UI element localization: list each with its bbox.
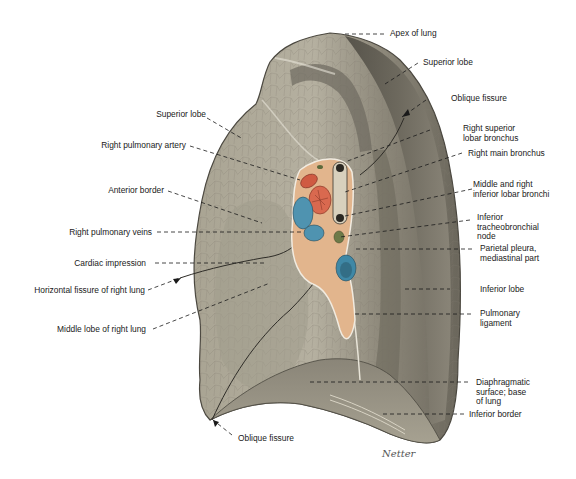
label-inferior-lobe: Inferior lobe <box>480 285 524 295</box>
label-inferior-tracheobronchial-node: Inferior tracheobronchial node <box>477 213 539 242</box>
lung-anatomy-figure: Apex of lung Superior lobe Oblique fissu… <box>0 0 576 479</box>
label-right-pulmonary-veins: Right pulmonary veins <box>69 228 152 238</box>
label-superior-lobe-lateral: Superior lobe <box>423 58 473 68</box>
label-oblique-fissure-top: Oblique fissure <box>451 94 507 104</box>
label-diaphragmatic-surface: Diaphragmatic surface; base of lung <box>476 378 530 407</box>
label-superior-lobe-medial: Superior lobe <box>156 110 206 120</box>
artist-signature: Netter <box>382 448 415 459</box>
label-anterior-border: Anterior border <box>108 186 164 196</box>
label-oblique-fissure-bottom: Oblique fissure <box>238 434 294 444</box>
label-middle-inferior-lobar-bronchi: Middle and right inferior lobar bronchi <box>473 180 549 199</box>
pulmonary-vein-upper <box>293 197 313 229</box>
label-right-superior-lobar-bronchus: Right superior lobar bronchus <box>463 124 518 143</box>
pulmonary-vein-lower <box>304 225 324 241</box>
label-parietal-pleura: Parietal pleura, mediastinal part <box>480 244 539 263</box>
label-middle-lobe: Middle lobe of right lung <box>57 325 146 335</box>
label-apex-of-lung: Apex of lung <box>390 29 437 39</box>
label-pulmonary-ligament: Pulmonary ligament <box>480 309 520 328</box>
label-right-pulmonary-artery: Right pulmonary artery <box>101 141 186 151</box>
label-right-main-bronchus: Right main bronchus <box>468 149 545 159</box>
label-cardiac-impression: Cardiac impression <box>74 259 146 269</box>
label-horizontal-fissure: Horizontal fissure of right lung <box>34 286 145 296</box>
label-inferior-border: Inferior border <box>469 410 522 420</box>
